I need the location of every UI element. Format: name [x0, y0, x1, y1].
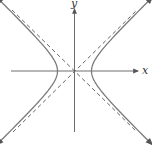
hyperbola-left-branch [0, 0, 58, 145]
y-axis-label: y [70, 0, 78, 10]
hyperbola-diagram: x y [0, 0, 152, 150]
x-axis-label: x [142, 64, 149, 77]
